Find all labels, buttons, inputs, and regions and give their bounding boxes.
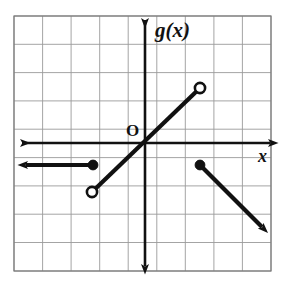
open-point-left xyxy=(87,187,97,197)
closed-point-right xyxy=(195,160,205,170)
open-point-right xyxy=(195,83,205,93)
x-axis-label: x xyxy=(257,146,267,166)
coordinate-plane-svg: g(x) x O xyxy=(0,0,282,288)
y-axis-label: g(x) xyxy=(154,18,190,42)
closed-point-left xyxy=(88,160,98,170)
origin-label: O xyxy=(126,121,139,140)
graph-figure: g(x) x O xyxy=(0,0,282,288)
